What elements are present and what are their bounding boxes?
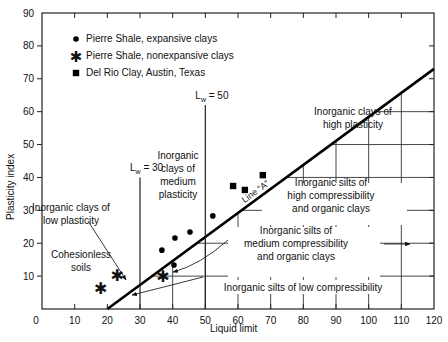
annotation-silts-high: and organic clays bbox=[292, 203, 370, 214]
point-nonexpansive-clay: ✱ bbox=[110, 267, 123, 284]
y-axis-label: Plasticity index bbox=[5, 154, 16, 220]
y-tick-label: 10 bbox=[23, 271, 35, 282]
x-tick-label: 110 bbox=[393, 315, 409, 326]
annotation-low-plasticity: Inorganic clays of bbox=[32, 202, 110, 213]
point-del-rio-clay bbox=[230, 183, 236, 189]
lw-label: Lw = 30 bbox=[130, 162, 164, 175]
annotation-cohesionless: soils bbox=[71, 262, 91, 273]
x-tick-label: 90 bbox=[330, 315, 342, 326]
x-tick-label: 40 bbox=[167, 315, 179, 326]
point-expansive-clay bbox=[172, 235, 178, 241]
y-tick-label: 80 bbox=[23, 40, 35, 51]
legend-asterisk-icon: ✱ bbox=[70, 48, 83, 65]
y-tick-label: 60 bbox=[23, 106, 35, 117]
annotation-silts-medium: medium compressibility bbox=[244, 238, 348, 249]
y-tick-label: 20 bbox=[23, 238, 35, 249]
point-nonexpansive-clay: ✱ bbox=[94, 280, 107, 297]
y-tick-label: 90 bbox=[23, 8, 35, 19]
annotation-medium-plasticity: clays of bbox=[161, 163, 195, 174]
annotation-silts-medium: Inorganic silts of bbox=[260, 225, 332, 236]
y-tick-label: 50 bbox=[23, 139, 35, 150]
x-tick-label: 10 bbox=[69, 315, 81, 326]
annotation-medium-plasticity: plasticity bbox=[159, 189, 197, 200]
legend-square-icon bbox=[73, 70, 79, 76]
y-tick-label: 70 bbox=[23, 73, 35, 84]
annotation-high-plasticity: high plasticity bbox=[323, 119, 383, 130]
legend-circle-icon bbox=[73, 36, 79, 42]
lw-label: Lw = 50 bbox=[195, 90, 229, 103]
x-tick-label: 120 bbox=[426, 315, 443, 326]
point-nonexpansive-clay: ✱ bbox=[156, 268, 169, 285]
plasticity-chart: Line “A”Lw = 30Lw = 50 01020304050607080… bbox=[0, 0, 448, 342]
legend-label: Pierre Shale, nonexpansive clays bbox=[86, 50, 234, 61]
point-del-rio-clay bbox=[242, 187, 248, 193]
legend: ✱Pierre Shale, expansive claysPierre Sha… bbox=[70, 33, 234, 78]
annotation-silts-low: Inorganic silts of low compressibility bbox=[224, 282, 382, 293]
point-expansive-clay bbox=[187, 229, 193, 235]
point-expansive-clay bbox=[159, 247, 165, 253]
annotation-high-plasticity: Inorganic clays of bbox=[314, 106, 392, 117]
annotation-cohesionless: Cohesionless bbox=[51, 249, 111, 260]
x-tick-label: 70 bbox=[265, 315, 277, 326]
point-expansive-clay bbox=[171, 262, 177, 268]
x-tick-label: 0 bbox=[33, 315, 39, 326]
legend-label: Pierre Shale, expansive clays bbox=[86, 33, 217, 44]
x-tick-label: 20 bbox=[102, 315, 114, 326]
point-del-rio-clay bbox=[260, 172, 266, 178]
x-tick-label: 30 bbox=[134, 315, 146, 326]
x-axis-label: Liquid limit bbox=[210, 323, 257, 334]
point-expansive-clay bbox=[210, 213, 216, 219]
annotation-silts-high: high compressibility bbox=[287, 190, 374, 201]
annotation-medium-plasticity: Inorganic bbox=[157, 150, 198, 161]
annotation-medium-plasticity: medium bbox=[160, 176, 196, 187]
y-tick-label: 40 bbox=[23, 172, 35, 183]
x-tick-label: 80 bbox=[298, 315, 310, 326]
x-tick-label: 100 bbox=[360, 315, 377, 326]
annotation-silts-medium: and organic clays bbox=[257, 251, 335, 262]
annotation-silts-high: Inorganic silts of bbox=[295, 177, 367, 188]
legend-label: Del Rio Clay, Austin, Texas bbox=[86, 67, 205, 78]
